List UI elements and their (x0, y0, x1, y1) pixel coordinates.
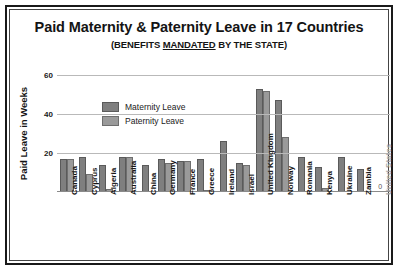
x-axis-category-text: France (188, 169, 197, 195)
bar-maternity (99, 165, 106, 192)
x-axis-category-label: Romania (292, 194, 312, 256)
x-axis-category-labels: CanadaCyprusAlgeriaAustraliaChinaGermany… (57, 194, 390, 256)
x-axis-category-label: Norway (273, 194, 293, 256)
x-axis-category-text: Norway (286, 166, 295, 195)
bar-maternity (142, 165, 149, 192)
x-axis-category-text: Greece (207, 168, 216, 195)
bar-maternity (220, 141, 227, 192)
x-axis-category-text: Australia (129, 161, 138, 195)
y-axis-label-text: Paid Leave in Weeks (19, 86, 30, 179)
x-axis-category-label: Zambia (351, 194, 371, 256)
bar-maternity (338, 157, 345, 192)
legend-label-maternity: Maternity Leave (125, 102, 185, 112)
x-axis-category-label: France (175, 194, 195, 256)
x-axis-category-text: Germany (168, 160, 177, 195)
subtitle-suffix: BY THE STATE) (216, 39, 287, 50)
y-axis-tick-label: 40 (44, 110, 53, 119)
legend-swatch-maternity-icon (102, 102, 119, 112)
bar-maternity (256, 89, 263, 192)
x-axis-category-text: Algeria (109, 168, 118, 195)
bar-maternity (197, 159, 204, 192)
x-axis-category-text: Canada (70, 166, 79, 195)
x-axis-category-label: Cyprus (77, 194, 97, 256)
y-axis-tick-label: 20 (44, 149, 53, 158)
x-axis-category-text: United States (384, 144, 393, 195)
x-axis-category-label: Greece (194, 194, 214, 256)
x-axis-category-label: China (135, 194, 155, 256)
y-axis-tick-label: 60 (44, 71, 53, 80)
chart-title: Paid Maternity & Paternity Leave in 17 C… (7, 19, 391, 35)
legend-item-maternity: Maternity Leave (102, 100, 185, 114)
plot-area: 0 204060 (57, 75, 390, 192)
subtitle-underlined: MANDATED (163, 39, 216, 50)
x-axis-category-label: Australia (116, 194, 136, 256)
x-axis-category-text: China (149, 173, 158, 195)
x-axis-line (57, 191, 390, 192)
x-axis-category-label: United Kingdom (253, 194, 273, 256)
bar-series-container: 0 (57, 75, 390, 192)
x-axis-category-text: Zambia (364, 167, 373, 195)
x-axis-category-text: Ireland (227, 169, 236, 195)
x-axis-category-text: Israel (247, 174, 256, 195)
x-axis-category-label: Algeria (96, 194, 116, 256)
x-axis-category-label: Ukraine (331, 194, 351, 256)
chart-legend: Maternity Leave Paternity Leave (102, 100, 185, 128)
bar-maternity (236, 163, 243, 192)
bar-maternity (119, 157, 126, 192)
y-axis-label: Paid Leave in Weeks (17, 73, 31, 193)
legend-swatch-paternity-icon (102, 116, 119, 126)
x-axis-category-label: Kenya (312, 194, 332, 256)
x-axis-category-label: Ireland (214, 194, 234, 256)
bar-maternity (315, 167, 322, 192)
chart-subtitle: (BENEFITS MANDATED BY THE STATE) (7, 39, 391, 50)
bar-maternity (158, 159, 165, 192)
x-axis-category-label: United States (371, 194, 391, 256)
x-axis-category-label: Canada (57, 194, 77, 256)
x-axis-category-text: Romania (305, 161, 314, 195)
x-axis-category-text: Cyprus (90, 167, 99, 195)
chart-frame: Paid Maternity & Paternity Leave in 17 C… (5, 5, 393, 265)
x-axis-category-label: Germany (155, 194, 175, 256)
bar-maternity (177, 161, 184, 192)
x-axis-category-text: United Kingdom (266, 133, 275, 195)
bar-maternity (79, 157, 86, 192)
x-axis-category-text: Ukraine (345, 166, 354, 195)
bar-maternity (60, 159, 67, 192)
grid-line (57, 75, 390, 76)
bar-value-label: 0 (378, 183, 382, 190)
legend-label-paternity: Paternity Leave (125, 116, 184, 126)
x-axis-category-label: Israel (233, 194, 253, 256)
subtitle-prefix: (BENEFITS (111, 39, 163, 50)
legend-item-paternity: Paternity Leave (102, 114, 185, 128)
grid-line (57, 153, 390, 154)
x-axis-category-text: Kenya (325, 171, 334, 195)
